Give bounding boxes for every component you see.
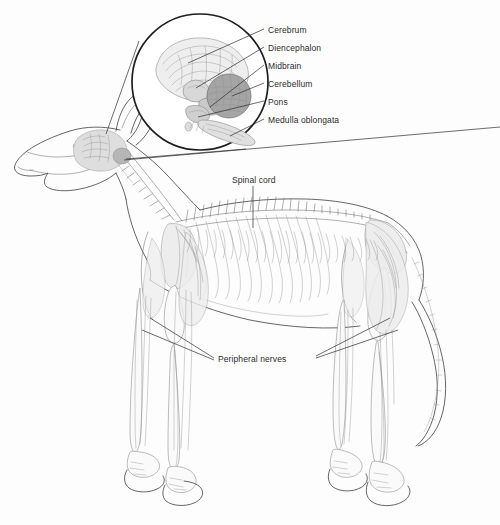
label-peripheral-nerves: Peripheral nerves — [218, 355, 286, 364]
hindlimb-near — [365, 220, 410, 506]
hindlimb-far — [328, 238, 367, 491]
label-spinal-cord: Spinal cord — [232, 176, 276, 185]
label-cerebellum: Cerebellum — [268, 80, 312, 89]
label-cerebrum: Cerebrum — [268, 26, 307, 35]
brain-in-head — [74, 130, 133, 182]
label-midbrain: Midbrain — [268, 62, 301, 71]
brain-inset — [132, 14, 268, 150]
anatomy-figure: .o{fill:none;stroke:#3f3f3f;stroke-width… — [0, 0, 500, 525]
anatomy-illustration: .o{fill:none;stroke:#3f3f3f;stroke-width… — [0, 0, 500, 525]
label-diencephalon: Diencephalon — [268, 44, 321, 53]
label-pons: Pons — [268, 98, 288, 107]
rib-cage — [196, 215, 329, 316]
forelimb-far — [125, 232, 165, 492]
label-medulla-oblongata: Medulla oblongata — [268, 116, 339, 125]
forelimb-near — [161, 224, 208, 506]
